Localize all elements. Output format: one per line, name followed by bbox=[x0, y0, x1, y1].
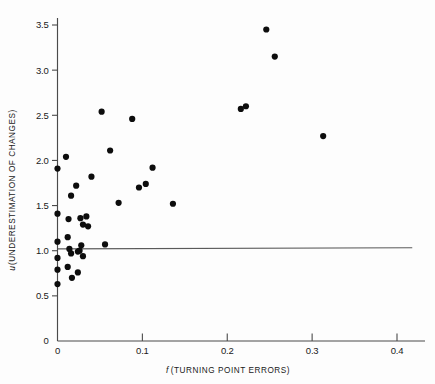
data-point bbox=[143, 181, 149, 187]
x-tick-label-1: 0.1 bbox=[136, 345, 149, 356]
axis-titles-group: f(TURNING POINT ERRORS)u(UNDERESTIMATION… bbox=[7, 109, 290, 375]
data-point bbox=[99, 109, 105, 115]
data-point bbox=[320, 133, 326, 139]
data-point bbox=[75, 249, 81, 255]
x-axis-title-text: (TURNING POINT ERRORS) bbox=[171, 366, 290, 375]
y-axis-tick-labels: 00.51.01.52.02.53.03.5 bbox=[36, 19, 49, 346]
data-point bbox=[65, 216, 71, 222]
y-axis-title-symbol: u bbox=[7, 266, 17, 271]
reference-line-u-equals-1 bbox=[58, 248, 413, 249]
data-point bbox=[107, 147, 113, 153]
data-point bbox=[243, 103, 249, 109]
x-axis-title-symbol: f bbox=[166, 365, 170, 375]
y-tick-label-7: 3.5 bbox=[36, 19, 49, 30]
x-tick-label-0: 0 bbox=[55, 345, 60, 356]
data-point bbox=[149, 165, 155, 171]
tick-marks-group bbox=[52, 25, 397, 341]
data-point bbox=[63, 154, 69, 160]
data-point bbox=[116, 200, 122, 206]
data-point bbox=[102, 241, 108, 247]
data-point bbox=[54, 165, 60, 171]
x-tick-label-2: 0.2 bbox=[221, 345, 234, 356]
y-tick-label-3: 1.5 bbox=[36, 200, 49, 211]
data-point bbox=[54, 267, 60, 273]
data-point bbox=[54, 239, 60, 245]
axes-group bbox=[58, 18, 426, 341]
data-point bbox=[85, 223, 91, 229]
data-point bbox=[170, 201, 176, 207]
data-point bbox=[65, 234, 71, 240]
plot-canvas: 00.51.01.52.02.53.03.5 00.10.20.30.4 f(T… bbox=[0, 0, 435, 384]
y-tick-label-5: 2.5 bbox=[36, 110, 49, 121]
x-axis-tick-labels: 00.10.20.30.4 bbox=[55, 345, 403, 356]
data-point bbox=[88, 174, 94, 180]
y-axis-title-text: (UNDERESTIMATION OF CHANGES) bbox=[8, 109, 17, 265]
data-point bbox=[54, 281, 60, 287]
data-point bbox=[80, 253, 86, 259]
data-point bbox=[54, 211, 60, 217]
data-point bbox=[65, 264, 71, 270]
y-tick-label-2: 1.0 bbox=[36, 245, 49, 256]
data-point bbox=[73, 183, 79, 189]
data-point bbox=[78, 242, 84, 248]
data-point bbox=[83, 213, 89, 219]
data-point bbox=[272, 54, 278, 60]
x-tick-label-4: 0.4 bbox=[391, 345, 404, 356]
data-point bbox=[136, 184, 142, 190]
data-point bbox=[68, 193, 74, 199]
data-point bbox=[77, 215, 83, 221]
y-tick-label-1: 0.5 bbox=[36, 290, 49, 301]
y-tick-label-0: 0 bbox=[43, 335, 48, 346]
data-point bbox=[129, 116, 135, 122]
data-point bbox=[68, 250, 74, 256]
y-axis-title: u(UNDERESTIMATION OF CHANGES) bbox=[7, 109, 17, 271]
data-point bbox=[54, 255, 60, 261]
x-tick-label-3: 0.3 bbox=[306, 345, 319, 356]
y-tick-label-4: 2.0 bbox=[36, 155, 49, 166]
y-tick-label-6: 3.0 bbox=[36, 65, 49, 76]
reference-line-group bbox=[58, 248, 413, 249]
x-axis-title: f(TURNING POINT ERRORS) bbox=[166, 365, 290, 375]
data-point bbox=[263, 26, 269, 32]
data-point bbox=[69, 275, 75, 281]
scatter-plot-figure: 00.51.01.52.02.53.03.5 00.10.20.30.4 f(T… bbox=[0, 0, 435, 384]
data-point bbox=[75, 269, 81, 275]
